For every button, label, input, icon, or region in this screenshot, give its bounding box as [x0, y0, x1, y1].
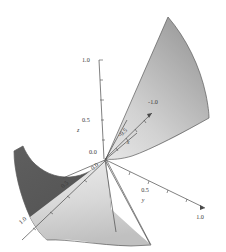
- axis-x-ticklabel-2: -1.0: [148, 98, 158, 105]
- axis-y-ticklabel-1: 0.5: [141, 186, 149, 193]
- axis-z: 1.0 0.5 0.0 z: [76, 56, 105, 159]
- surface-upper-right-sheet: [106, 17, 209, 159]
- axis-y-minortick: [129, 172, 130, 175]
- axis-z-name: z: [76, 127, 80, 133]
- axis-y-minortick: [186, 199, 187, 202]
- axis-z-ticklabel-3: 0.0: [89, 148, 97, 155]
- axis-y-ticklabel-2: 1.0: [196, 213, 204, 220]
- axis-y-line: [106, 160, 205, 208]
- axis-y-name: y: [141, 197, 145, 203]
- axis-y-minortick: [167, 190, 168, 193]
- axis-y-tick-0.5: [148, 181, 149, 184]
- axis-z-ticklabel-1: 1.0: [82, 56, 90, 63]
- axis-w-ticklabel-2: 1.0: [17, 215, 27, 225]
- axis-z-line: [99, 60, 104, 159]
- axis-z-ticklabel-2: 0.5: [82, 116, 90, 123]
- plot-canvas: 1.0 0.5 0.0 z -0.5 -1.0 x 0.5 1.0: [0, 0, 226, 252]
- surface-plot-figure: 1.0 0.5 0.0 z -0.5 -1.0 x 0.5 1.0: [0, 0, 226, 252]
